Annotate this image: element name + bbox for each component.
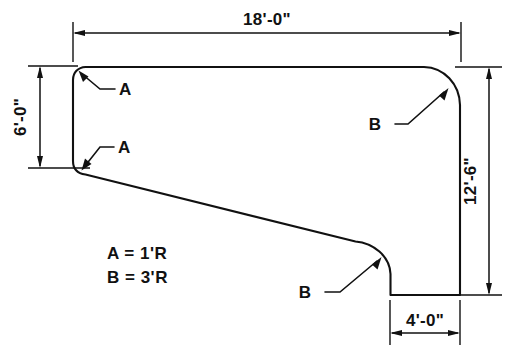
callout-label-a-middle: A — [118, 138, 130, 157]
dimension-right-12ft6: 12'-6" — [455, 67, 502, 295]
radius-notes-block: A = 1'R B = 3'R — [107, 244, 168, 287]
radius-note-a: A = 1'R — [107, 244, 167, 263]
arrowhead-left-top — [37, 66, 43, 78]
leader-line-b-top — [395, 92, 444, 124]
dimension-top-18ft: 18'-0" — [73, 10, 461, 62]
callout-b-top: B — [369, 88, 449, 134]
dimension-label-top: 18'-0" — [243, 10, 291, 29]
dimensioned-outline-drawing: 18'-0" 6'-0" 12'-6" 4'-0" — [0, 0, 524, 360]
callout-label-b-top: B — [369, 115, 381, 134]
arrowhead-top-right — [449, 30, 461, 36]
callout-a-top: A — [79, 71, 132, 100]
radius-note-b: B = 3'R — [107, 268, 168, 287]
callout-b-bottom: B — [299, 257, 382, 302]
callout-a-middle: A — [82, 138, 131, 171]
arrowhead-a-top — [79, 71, 89, 83]
arrowhead-left-bottom — [37, 156, 43, 168]
dimension-label-bottom: 4'-0" — [406, 311, 444, 330]
dimension-label-right: 12'-6" — [461, 157, 480, 205]
arrowhead-right-bottom — [486, 283, 492, 295]
callout-label-a-top: A — [119, 80, 131, 99]
arrowhead-bottom-left — [390, 330, 402, 336]
arrowhead-right-top — [486, 67, 492, 79]
dimension-bottom-4ft: 4'-0" — [390, 300, 460, 345]
leader-line-b-bottom — [325, 261, 377, 292]
technical-drawing-canvas: 18'-0" 6'-0" 12'-6" 4'-0" — [0, 0, 524, 360]
dimension-left-6ft: 6'-0" — [11, 66, 90, 168]
callout-label-b-bottom: B — [299, 283, 311, 302]
arrowhead-top-left — [73, 30, 85, 36]
arrowhead-bottom-right — [448, 330, 460, 336]
dimension-label-left: 6'-0" — [11, 98, 30, 136]
